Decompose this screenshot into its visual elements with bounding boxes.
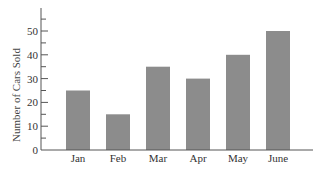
chart-plot-area: JanFebMarAprMayJune01020304050 <box>0 0 321 170</box>
y-tick-label: 10 <box>27 120 39 132</box>
bar-jan <box>66 91 90 151</box>
y-tick-label: 50 <box>27 25 39 37</box>
x-tick-label: June <box>268 152 288 164</box>
x-tick-label: May <box>228 152 249 164</box>
x-tick-label: Mar <box>149 152 168 164</box>
bar-may <box>226 55 250 150</box>
y-axis-label: Number of Cars Sold <box>10 48 22 142</box>
y-tick-label: 0 <box>33 144 39 156</box>
x-tick-label: Feb <box>110 152 127 164</box>
bar-june <box>266 31 290 150</box>
y-tick-label: 30 <box>27 73 39 85</box>
x-tick-label: Apr <box>189 152 206 164</box>
y-tick-label: 40 <box>27 49 39 61</box>
bar-chart: JanFebMarAprMayJune01020304050 Number of… <box>0 0 321 170</box>
y-tick-label: 20 <box>27 96 39 108</box>
bar-feb <box>106 114 130 150</box>
bar-apr <box>186 79 210 150</box>
bar-mar <box>146 67 170 150</box>
x-tick-label: Jan <box>71 152 86 164</box>
